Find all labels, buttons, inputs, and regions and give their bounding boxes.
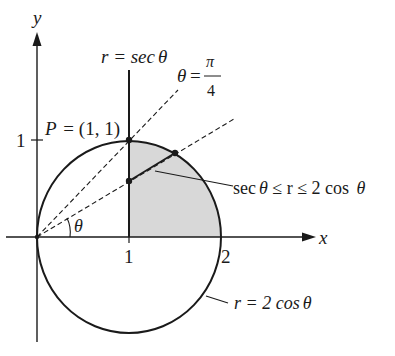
point-p — [126, 137, 132, 143]
region-label: secθ ≤ r ≤ 2 cos θ — [233, 178, 366, 198]
origin-point — [35, 235, 39, 239]
point-on-line — [126, 178, 132, 184]
circle-label: r = 2 cosθ — [234, 293, 312, 313]
quarter-pi-numerator: π — [206, 53, 215, 70]
quarter-pi-theta: θ — [177, 65, 186, 86]
angle-theta-label: θ — [74, 216, 83, 236]
polar-region-diagram: y x 1 1 2 r = secθ θ = π 4 P = (1, 1) θ … — [0, 0, 395, 356]
quarter-pi-equals: = — [190, 65, 201, 86]
x-tick-label-2: 2 — [221, 246, 231, 267]
secant-line-label: r = secθ — [101, 46, 167, 67]
point-p-label: P = (1, 1) — [44, 118, 120, 140]
point-on-circle — [172, 150, 178, 156]
x-axis-label: x — [318, 227, 328, 248]
angle-arc — [67, 218, 70, 237]
shaded-region — [129, 130, 229, 237]
y-axis-arrow-icon — [33, 32, 42, 46]
y-axis-label: y — [31, 7, 42, 28]
x-tick-label-1: 1 — [124, 246, 134, 267]
y-tick-label-1: 1 — [16, 130, 26, 151]
y-axis — [33, 32, 42, 342]
quarter-pi-denominator: 4 — [207, 82, 215, 99]
x-axis-arrow-icon — [302, 233, 316, 242]
circle-leader-line — [206, 296, 228, 303]
